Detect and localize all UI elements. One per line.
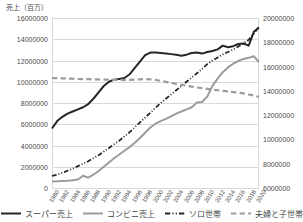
right-axis-ticks: 2000000018000000160000001400000012000000… [261, 18, 303, 188]
y-axis-title: 売上（百万） [6, 2, 48, 12]
x-axis-tick-label: 1982 [58, 189, 70, 204]
right-axis-tick-label: 12000000 [263, 112, 294, 119]
left-axis-ticks: 1600000014000000120000001000000080000006… [0, 18, 50, 188]
line-chart: 売上（百万） 160000001400000012000000100000008… [0, 0, 303, 222]
x-axis-tick-label: 1984 [69, 189, 81, 204]
right-axis-tick-label: 10000000 [263, 136, 294, 143]
x-axis-tick-label: 1990 [100, 189, 112, 204]
series-line-スーパー売上 [52, 28, 259, 129]
series-container [52, 18, 259, 188]
left-axis-tick-label: 12000000 [17, 57, 48, 64]
right-axis-tick-label: 16000000 [263, 63, 294, 70]
plot-area [52, 18, 259, 188]
legend-swatch-icon [230, 209, 252, 218]
legend-item-夫婦と子世帯[interactable]: 夫婦と子世帯 [230, 208, 303, 219]
right-axis-tick-label: 20000000 [263, 15, 294, 22]
legend-item-ソロ世帯[interactable]: ソロ世帯 [164, 208, 221, 219]
left-axis-tick-label: 10000000 [17, 78, 48, 85]
legend-label: 夫婦と子世帯 [255, 208, 303, 219]
left-axis-tick-label: 16000000 [17, 15, 48, 22]
x-axis-tick-label: 1980 [48, 189, 60, 204]
x-axis-tick-label: 1988 [89, 189, 101, 204]
right-axis-tick-label: 14000000 [263, 87, 294, 94]
legend-item-コンビニ売上[interactable]: コンビニ売上 [82, 208, 155, 219]
series-line-コンビニ売上 [52, 56, 259, 181]
right-axis-tick-label: 8000000 [263, 160, 290, 167]
series-line-夫婦と子世帯 [52, 78, 259, 97]
left-axis-tick-label: 2000000 [21, 163, 48, 170]
legend-swatch-icon [82, 209, 104, 218]
left-axis-tick-label: 6000000 [21, 121, 48, 128]
x-axis-tick-label: 2006 [182, 189, 194, 204]
right-axis-tick-label: 6000000 [263, 185, 290, 192]
left-axis-tick-label: 8000000 [21, 100, 48, 107]
left-axis-tick-label: 14000000 [17, 36, 48, 43]
x-axis-tick-label: 1994 [120, 189, 132, 204]
legend-label: スーパー売上 [25, 208, 73, 219]
x-axis-tick-label: 2012 [214, 189, 226, 204]
series-line-ソロ世帯 [52, 27, 259, 176]
right-axis-tick-label: 18000000 [263, 39, 294, 46]
x-axis-tick-label: 2000 [151, 189, 163, 204]
legend-swatch-icon [0, 209, 22, 218]
legend-item-スーパー売上[interactable]: スーパー売上 [0, 208, 73, 219]
left-axis-tick-label: 0 [44, 185, 48, 192]
legend-label: コンビニ売上 [107, 208, 155, 219]
chart-legend: スーパー売上コンビニ売上ソロ世帯夫婦と子世帯 [0, 205, 303, 221]
x-axis-tick-label: 1996 [131, 189, 143, 204]
x-axis-tick-label: 2018 [245, 189, 257, 204]
left-axis-tick-label: 4000000 [21, 142, 48, 149]
legend-label: ソロ世帯 [189, 208, 221, 219]
legend-swatch-icon [164, 209, 186, 218]
